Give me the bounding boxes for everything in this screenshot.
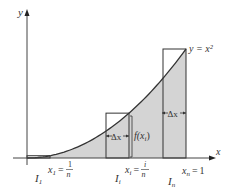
- interval-label-i: Ii: [114, 172, 121, 186]
- endpoint-num-i: i: [144, 160, 146, 169]
- endpoint-label-i: xi=: [124, 164, 139, 177]
- interval-label-1: I1: [34, 172, 42, 186]
- y-axis-arrow-icon: [25, 9, 30, 16]
- x-axis-arrow-icon: [209, 156, 216, 161]
- endpoint-label-n: xn=1: [181, 165, 205, 178]
- x-axis-label: x: [215, 146, 221, 157]
- endpoint-label-1: x1=: [47, 164, 64, 177]
- curve-label: y = x²: [188, 43, 214, 54]
- y-axis-label: y: [17, 6, 23, 18]
- endpoint-den-1: n: [67, 170, 71, 179]
- interval-label-n: In: [167, 175, 176, 189]
- endpoint-num-1: 1: [68, 160, 72, 169]
- endpoint-den-i: n: [142, 170, 146, 179]
- delta-x-label: Δx: [111, 132, 122, 142]
- delta-x-label-n: Δx: [168, 109, 179, 119]
- riemann-diagram: y x y = x² Δx f(xi) Δx I1 x1= 1 n Ii xi=…: [0, 0, 226, 193]
